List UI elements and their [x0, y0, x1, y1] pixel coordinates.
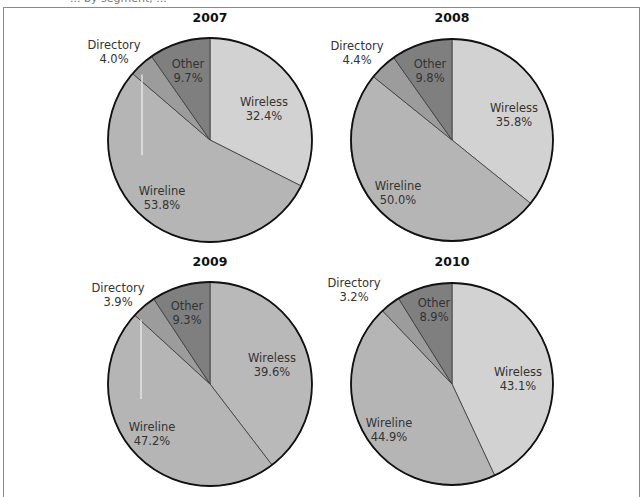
- slice-label-wireless: Wireless43.1%: [494, 365, 542, 393]
- slice-label-directory: Directory4.0%: [87, 38, 140, 66]
- slice-label-other: Other9.8%: [414, 57, 447, 85]
- pie-chart-2007: 2007Wireless32.4%Wireline53.8%Directory4…: [87, 10, 312, 242]
- slice-label-wireless: Wireless35.8%: [490, 101, 538, 129]
- pie-title: 2007: [193, 10, 228, 25]
- slice-label-other: Other9.3%: [171, 299, 204, 327]
- slice-label-wireline: Wireline47.2%: [129, 420, 176, 448]
- slice-label-directory: Directory3.2%: [327, 276, 380, 304]
- slice-label-wireless: Wireless32.4%: [240, 95, 288, 123]
- slice-label-other: Other9.7%: [172, 57, 205, 85]
- pie-chart-2010: 2010Wireless43.1%Wireline44.9%Directory3…: [327, 254, 553, 485]
- slice-label-wireless: Wireless39.6%: [248, 351, 296, 379]
- slice-label-directory: Directory4.4%: [330, 39, 383, 67]
- slice-label-wireline: Wireline50.0%: [375, 179, 422, 207]
- pie-title: 2010: [435, 254, 470, 269]
- pie-chart-2009: 2009Wireless39.6%Wireline47.2%Directory3…: [91, 254, 312, 486]
- pie-title: 2008: [435, 10, 470, 25]
- slice-label-wireline: Wireline44.9%: [366, 416, 413, 444]
- pie-title: 2009: [193, 254, 228, 269]
- pie-chart-2008: 2008Wireless35.8%Wireline50.0%Directory4…: [330, 10, 553, 241]
- slice-label-wireline: Wireline53.8%: [139, 184, 186, 212]
- slice-label-other: Other8.9%: [418, 296, 451, 324]
- slice-label-directory: Directory3.9%: [91, 281, 144, 309]
